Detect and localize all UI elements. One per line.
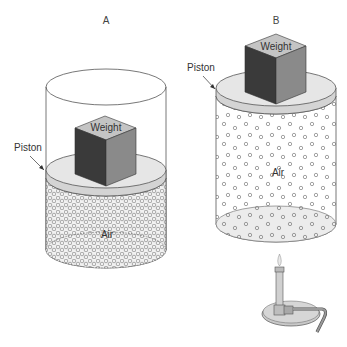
air-label-b: Air [272, 167, 285, 178]
weight-cube-b: Weight [245, 34, 306, 104]
piston-pointer-a: Piston [14, 142, 44, 170]
weight-label-a: Weight [91, 122, 122, 133]
air-label-a: Air [101, 229, 114, 240]
weight-cube-a: Weight [75, 116, 136, 186]
bunsen-burner-icon [262, 254, 326, 332]
panel-a: A Air Weight Piston [14, 15, 166, 268]
panel-b: B Air Weight Piston [187, 15, 336, 332]
piston-label-b: Piston [187, 62, 215, 73]
piston-pointer-b: Piston [187, 62, 215, 89]
flame-icon [278, 254, 282, 266]
weight-label-b: Weight [261, 41, 292, 52]
panel-a-title: A [103, 15, 110, 26]
expanded-air-b: Air [216, 96, 336, 242]
panel-b-title: B [273, 15, 280, 26]
diagram-canvas: A Air Weight Piston [0, 0, 347, 347]
piston-label-a: Piston [14, 142, 42, 153]
